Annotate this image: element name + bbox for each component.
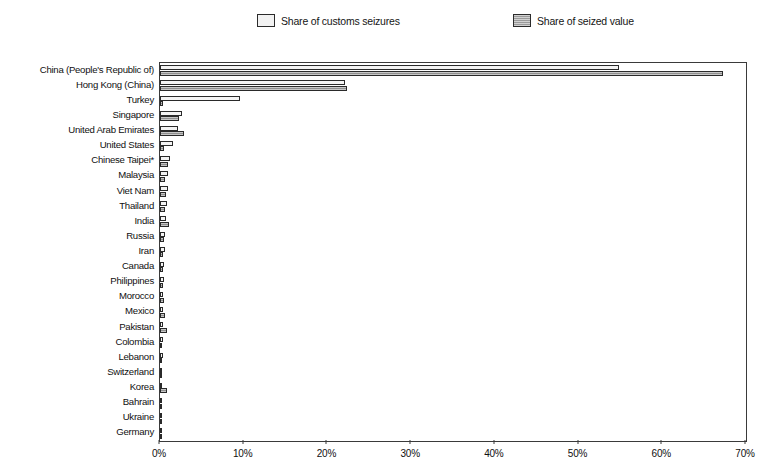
bar: [160, 368, 162, 373]
plot-area: [159, 62, 747, 442]
bar: [160, 298, 164, 303]
bar: [160, 322, 163, 327]
bar: [160, 313, 165, 318]
bar: [160, 252, 163, 257]
bar: [160, 267, 163, 272]
bar: [160, 398, 162, 403]
bar: [160, 141, 173, 146]
bar: [160, 388, 167, 393]
bar: [160, 277, 164, 282]
bar: [160, 434, 162, 439]
bar: [160, 207, 165, 212]
bar: [160, 146, 164, 151]
bar: [160, 353, 163, 358]
y-axis-label: Russia: [126, 231, 154, 241]
bar: [160, 247, 165, 252]
bar: [160, 101, 163, 106]
y-axis-label: Mexico: [125, 306, 154, 316]
y-axis-label: Chinese Taipei*: [91, 155, 154, 165]
x-axis-tick: [493, 440, 494, 444]
bar: [160, 328, 167, 333]
x-axis-tick: [326, 440, 327, 444]
y-axis-label: Switzerland: [107, 367, 154, 377]
y-axis-label: Korea: [130, 382, 154, 392]
bar: [160, 156, 170, 161]
y-axis-label: United Arab Emirates: [68, 125, 154, 135]
x-axis-tick-label: 30%: [400, 448, 419, 459]
bar: [160, 86, 347, 91]
bar: [160, 192, 166, 197]
bar: [160, 96, 240, 101]
bar: [160, 162, 168, 167]
bar: [160, 419, 162, 424]
y-axis-category-labels: China (People's Republic of)Hong Kong (C…: [0, 62, 157, 440]
y-axis-label: Hong Kong (China): [76, 80, 154, 90]
bar: [160, 186, 168, 191]
x-axis-tick: [745, 440, 746, 444]
bar: [160, 222, 169, 227]
bar: [160, 343, 162, 348]
plot-wrapper: China (People's Republic of)Hong Kong (C…: [0, 0, 764, 464]
bar: [160, 177, 165, 182]
y-axis-label: Pakistan: [119, 322, 154, 332]
bar: [160, 111, 182, 116]
y-axis-label: Canada: [122, 261, 154, 271]
x-axis-tick-label: 40%: [484, 448, 503, 459]
x-axis-tick: [242, 440, 243, 444]
x-axis-tick-label: 0%: [152, 448, 166, 459]
x-axis: 0%10%20%30%40%50%60%70%: [159, 440, 745, 464]
x-axis-tick: [159, 440, 160, 444]
bar: [160, 373, 162, 378]
bar: [160, 404, 162, 409]
y-axis-label: Philippines: [110, 276, 154, 286]
y-axis-label: Turkey: [127, 95, 154, 105]
x-axis-tick-label: 20%: [317, 448, 336, 459]
bar: [160, 237, 164, 242]
bar: [160, 80, 345, 85]
y-axis-label: Germany: [116, 427, 154, 437]
y-axis-label: Bahrain: [123, 397, 154, 407]
bar: [160, 262, 164, 267]
bar: [160, 428, 162, 433]
bar: [160, 307, 163, 312]
x-axis-tick-label: 50%: [568, 448, 587, 459]
bar: [160, 337, 163, 342]
y-axis-label: Thailand: [119, 201, 154, 211]
y-axis-label: Colombia: [115, 337, 154, 347]
bar: [160, 358, 162, 363]
bar: [160, 131, 184, 136]
bar: [160, 71, 723, 76]
y-axis-label: Lebanon: [118, 352, 154, 362]
bar-chart: Share of customs seizures Share of seize…: [0, 0, 764, 464]
bar: [160, 201, 167, 206]
y-axis-label: United States: [100, 140, 154, 150]
bar: [160, 292, 163, 297]
x-axis-tick: [577, 440, 578, 444]
y-axis-label: Viet Nam: [117, 186, 154, 196]
y-axis-label: Morocco: [119, 291, 154, 301]
x-axis-tick: [661, 440, 662, 444]
x-axis-tick-label: 60%: [652, 448, 671, 459]
y-axis-label: India: [134, 216, 154, 226]
bar: [160, 126, 178, 131]
bar: [160, 65, 619, 70]
x-axis-tick: [410, 440, 411, 444]
y-axis-label: Singapore: [113, 110, 155, 120]
bar: [160, 171, 168, 176]
y-axis-label: Iran: [138, 246, 154, 256]
x-axis-tick-label: 70%: [735, 448, 754, 459]
y-axis-label: China (People's Republic of): [40, 65, 154, 75]
bar: [160, 383, 162, 388]
bar: [160, 232, 165, 237]
y-axis-label: Malaysia: [118, 170, 154, 180]
x-axis-tick-label: 10%: [233, 448, 252, 459]
bar: [160, 116, 179, 121]
bar: [160, 413, 162, 418]
y-axis-label: Ukraine: [123, 412, 154, 422]
bar: [160, 283, 163, 288]
bar: [160, 216, 166, 221]
